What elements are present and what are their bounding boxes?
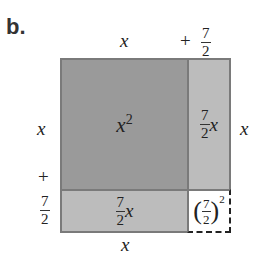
x-squared-region: x2 <box>60 58 189 191</box>
top-x-label: x <box>120 30 128 52</box>
left-plus-label: + <box>38 166 49 188</box>
bottom-x-label: x <box>121 234 129 256</box>
left-x-label: x <box>37 118 45 140</box>
top-fraction: 7 2 <box>201 26 211 59</box>
x-squared-exp: 2 <box>126 112 133 127</box>
corner-square-region: ( 7 2 ) 2 <box>187 189 231 233</box>
right-rect-region: 7 2 x <box>187 58 231 191</box>
figure-label: b. <box>6 14 26 40</box>
right-rect-var: x <box>210 114 218 136</box>
left-fraction: 7 2 <box>40 194 50 227</box>
top-plus-label: + <box>180 30 191 52</box>
right-x-label: x <box>240 118 248 140</box>
bottom-rect-var: x <box>125 200 133 222</box>
bottom-rect-region: 7 2 x <box>60 189 189 233</box>
x-squared-base: x <box>116 113 125 137</box>
